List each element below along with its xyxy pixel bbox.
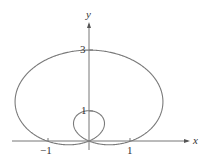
y-tick-label-3: 3 [80, 44, 86, 55]
y-axis-label: y [86, 9, 91, 20]
x-tick-label-neg1: −1 [40, 145, 52, 156]
x-axis-label: x [193, 135, 198, 146]
polar-plot [0, 0, 208, 164]
y-axis-arrow-icon [87, 22, 91, 28]
y-tick-label-1: 1 [81, 105, 87, 116]
x-axis-arrow-icon [184, 139, 190, 143]
x-tick-label-pos1: 1 [127, 145, 133, 156]
